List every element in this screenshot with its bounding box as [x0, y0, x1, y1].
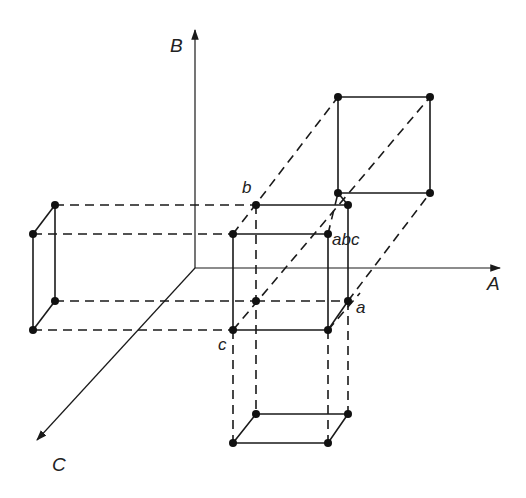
axis-c — [37, 268, 195, 440]
axes — [37, 30, 500, 440]
projection-square-top-right — [338, 97, 430, 193]
factorial-cube-diagram: B A C b abc a c — [0, 0, 526, 498]
vertex-label-c: c — [218, 335, 227, 354]
projection-square-left — [33, 205, 55, 330]
axis-label-b: B — [170, 35, 183, 56]
vertices — [29, 93, 434, 447]
vertex-label-abc: abc — [332, 230, 360, 249]
projection-lines — [33, 97, 430, 443]
vertex-label-b: b — [242, 178, 251, 197]
vertex-label-a: a — [356, 298, 365, 317]
axis-label-a: A — [486, 273, 500, 294]
projection-square-bottom — [233, 414, 348, 443]
axis-label-c: C — [52, 454, 66, 475]
